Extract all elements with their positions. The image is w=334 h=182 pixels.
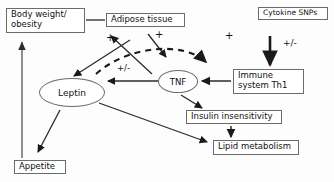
node-adipose-tissue: Adipose tissue <box>106 13 185 27</box>
node-leptin: Leptin <box>39 78 105 107</box>
edge-label-plus-adipose-leptin: + <box>106 32 114 43</box>
diagram-canvas: Body weight/ obesity Adipose tissue Cyto… <box>0 0 334 182</box>
edge-label-plus-leptin-immune: + <box>225 30 233 41</box>
edge-leptin-appetite <box>38 110 60 152</box>
edge-label-plusminus-cytokine-immune: +/- <box>283 38 297 48</box>
edge-leptin-immune-dashed <box>96 49 206 74</box>
node-appetite: Appetite <box>14 160 66 174</box>
edge-label-plusminus-tnf-leptin: +/- <box>117 63 130 73</box>
node-tnf: TNF <box>158 70 198 93</box>
edge-tnf-insulin <box>181 95 202 108</box>
edge-label-plus-adipose-tnf: + <box>155 29 163 40</box>
node-immune-system-th1: Immune system Th1 <box>233 69 304 94</box>
node-body-weight: Body weight/ obesity <box>6 8 85 33</box>
node-lipid-metabolism: Lipid metabolism <box>213 140 299 155</box>
node-cytokine-snps: Cytokine SNPs <box>258 7 328 20</box>
node-insulin-insensitivity: Insulin insensitivity <box>186 110 282 124</box>
